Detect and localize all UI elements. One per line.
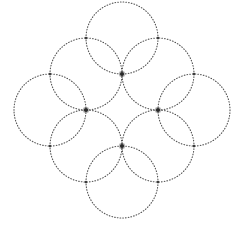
- dotted-circle-upper-left: [50, 38, 122, 110]
- crossing-top-right-dot: [157, 37, 160, 40]
- dotted-circle-left: [14, 74, 86, 146]
- crossing-bottom-right-dot: [157, 181, 160, 184]
- inner-node-top: [120, 72, 124, 76]
- crossing-bottom-left-dot: [85, 181, 88, 184]
- inner-node-bottom: [120, 144, 124, 148]
- inner-node-right: [156, 108, 160, 112]
- dotted-circle-top: [86, 2, 158, 74]
- drawing-canvas: [0, 0, 243, 232]
- crossing-right-upper-dot: [193, 73, 196, 76]
- crossing-right-lower-dot: [193, 145, 196, 148]
- crossing-left-upper-dot: [49, 73, 52, 76]
- dotted-circles-svg: [0, 0, 243, 232]
- inner-node-left: [84, 108, 88, 112]
- dotted-circle-lower-right: [122, 110, 194, 182]
- dotted-circle-right: [158, 74, 230, 146]
- dotted-circle-bottom: [86, 146, 158, 218]
- crossing-left-lower-dot: [49, 145, 52, 148]
- dotted-circle-lower-left: [50, 110, 122, 182]
- dotted-circle-upper-right: [122, 38, 194, 110]
- crossing-top-left-dot: [85, 37, 88, 40]
